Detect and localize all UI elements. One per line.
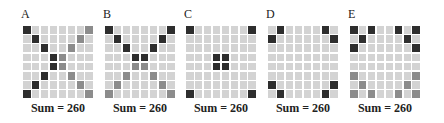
light-cell — [159, 90, 167, 98]
light-cell — [295, 81, 303, 89]
light-cell — [204, 90, 212, 98]
light-cell — [132, 26, 140, 34]
light-cell — [105, 44, 113, 52]
light-cell — [204, 54, 212, 62]
light-cell — [59, 72, 67, 80]
panel-label: C — [184, 7, 192, 22]
light-cell — [304, 26, 312, 34]
light-cell — [313, 72, 321, 80]
medium-cell — [59, 63, 67, 71]
light-cell — [41, 26, 49, 34]
light-cell — [186, 35, 194, 43]
light-cell — [77, 44, 85, 52]
light-cell — [41, 90, 49, 98]
dark-cell — [350, 26, 358, 34]
light-cell — [404, 44, 412, 52]
light-cell — [50, 72, 58, 80]
dark-cell — [23, 90, 31, 98]
light-cell — [132, 90, 140, 98]
light-cell — [167, 44, 175, 52]
light-cell — [59, 44, 67, 52]
light-cell — [313, 63, 321, 71]
light-cell — [204, 63, 212, 71]
light-cell — [204, 26, 212, 34]
light-cell — [159, 44, 167, 52]
dark-cell — [268, 35, 276, 43]
light-cell — [386, 54, 394, 62]
light-cell — [50, 90, 58, 98]
light-cell — [359, 54, 367, 62]
dark-cell — [105, 26, 113, 34]
medium-cell — [85, 90, 93, 98]
dark-cell — [222, 63, 230, 71]
light-cell — [386, 26, 394, 34]
light-cell — [322, 35, 330, 43]
light-cell — [277, 81, 285, 89]
light-cell — [195, 90, 203, 98]
light-cell — [386, 35, 394, 43]
dark-cell — [50, 63, 58, 71]
medium-cell — [404, 81, 412, 89]
medium-cell — [68, 72, 76, 80]
light-cell — [222, 90, 230, 98]
light-cell — [85, 54, 93, 62]
light-cell — [150, 90, 158, 98]
light-cell — [322, 44, 330, 52]
dark-cell — [277, 90, 285, 98]
light-cell — [114, 90, 122, 98]
light-cell — [304, 81, 312, 89]
light-cell — [141, 72, 149, 80]
light-cell — [368, 44, 376, 52]
light-cell — [286, 81, 294, 89]
sum-label: Sum = 260 — [268, 101, 338, 116]
light-cell — [32, 54, 40, 62]
dark-cell — [412, 26, 420, 34]
light-cell — [277, 44, 285, 52]
light-cell — [77, 54, 85, 62]
light-cell — [68, 54, 76, 62]
light-cell — [322, 81, 330, 89]
light-cell — [85, 44, 93, 52]
light-cell — [377, 63, 385, 71]
light-cell — [123, 35, 131, 43]
light-cell — [141, 26, 149, 34]
light-cell — [32, 26, 40, 34]
medium-cell — [85, 26, 93, 34]
light-cell — [150, 54, 158, 62]
dark-cell — [186, 26, 194, 34]
dark-cell — [222, 54, 230, 62]
light-cell — [377, 35, 385, 43]
light-cell — [41, 54, 49, 62]
dark-cell — [114, 35, 122, 43]
light-cell — [41, 35, 49, 43]
light-cell — [68, 90, 76, 98]
light-cell — [240, 81, 248, 89]
light-cell — [313, 44, 321, 52]
dark-cell — [123, 44, 131, 52]
light-cell — [23, 81, 31, 89]
light-cell — [132, 44, 140, 52]
dark-cell — [248, 26, 256, 34]
light-cell — [213, 72, 221, 80]
light-cell — [222, 44, 230, 52]
medium-cell — [412, 90, 420, 98]
light-cell — [404, 72, 412, 80]
light-cell — [59, 35, 67, 43]
light-cell — [32, 44, 40, 52]
sum-label: Sum = 260 — [105, 101, 175, 116]
light-cell — [248, 81, 256, 89]
light-cell — [132, 35, 140, 43]
medium-cell — [114, 81, 122, 89]
sum-label: Sum = 260 — [186, 101, 256, 116]
magic-square-grid — [268, 26, 338, 98]
light-cell — [248, 44, 256, 52]
panel-label: B — [103, 7, 111, 22]
light-cell — [395, 72, 403, 80]
light-cell — [386, 44, 394, 52]
dark-cell — [213, 54, 221, 62]
light-cell — [141, 35, 149, 43]
dark-cell — [350, 44, 358, 52]
light-cell — [286, 44, 294, 52]
dark-cell — [330, 35, 338, 43]
medium-cell — [350, 72, 358, 80]
